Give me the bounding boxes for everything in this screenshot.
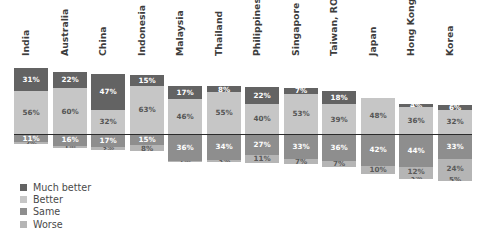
legend-label: Much better (33, 182, 91, 193)
bar-value-label: 48% (369, 112, 386, 119)
zero-baseline (14, 134, 472, 135)
legend-item[interactable]: Better (20, 193, 91, 205)
bar-value-label: 33% (446, 143, 463, 150)
bar-segment: 2% (14, 142, 48, 144)
bar-column: 17%46%36%1% (168, 58, 202, 178)
bar-segment: 33% (438, 134, 472, 159)
category-label-text: Malaysia (174, 10, 185, 56)
category-label-japan: Japan (361, 0, 395, 56)
bar-segment: 31% (14, 68, 48, 92)
bar-value-label: 53% (292, 110, 309, 117)
bar-column: 31%56%11%2% (14, 58, 48, 178)
bar-segment: 24% (438, 159, 472, 177)
bar-value-label: 47% (99, 88, 116, 95)
bar-segment: 12% (399, 167, 433, 176)
bar-value-label: 5% (449, 177, 461, 181)
bar-segment: 63% (130, 86, 164, 134)
bar-value-label: 40% (253, 115, 270, 122)
bar-segment: 11% (245, 155, 279, 163)
bar-segment: 17% (91, 134, 125, 147)
bar-segment: 15% (130, 75, 164, 86)
bar-segment: 1% (91, 149, 125, 150)
bar-segment: 36% (168, 134, 202, 161)
bar-segment: 40% (245, 104, 279, 134)
bar-segment: 10% (361, 166, 395, 174)
bar-segment: 1% (53, 147, 87, 148)
legend-swatch-icon (20, 184, 27, 191)
bar-value-label: 11% (22, 135, 39, 142)
category-label-philippines: Philippines (245, 0, 279, 56)
bar-column: 22%60%16%1%1% (53, 58, 87, 178)
bar-segment: 60% (53, 88, 87, 134)
bar-segment: 18% (322, 91, 356, 105)
legend-swatch-icon (20, 221, 27, 228)
bar-segment: 3% (399, 177, 433, 179)
category-label-text: Indonesia (136, 5, 147, 56)
legend-label: Same (33, 206, 60, 217)
legend-item[interactable]: Much better (20, 181, 91, 193)
category-label-malaysia: Malaysia (168, 0, 202, 56)
bar-segment: 55% (207, 92, 241, 134)
bar-column: 6%32%33%24%5% (438, 58, 472, 178)
bar-value-label: 60% (61, 108, 78, 115)
category-label-text: Thailand (213, 11, 224, 56)
legend-label: Better (33, 194, 63, 205)
bar-value-label: 33% (292, 143, 309, 150)
category-label-india: India (14, 0, 48, 56)
bar-value-label: 27% (253, 141, 270, 148)
bar-value-label: 12% (407, 168, 424, 175)
bar-value-label: 1% (179, 161, 191, 162)
bar-value-label: 8% (141, 145, 153, 151)
chart-legend: Much betterBetterSameWorse (20, 181, 91, 231)
bar-segment: 15% (130, 134, 164, 145)
category-label-text: China (97, 26, 108, 56)
bar-value-label: 36% (330, 144, 347, 151)
bar-value-label: 56% (22, 109, 39, 116)
category-label-text: Australia (59, 9, 70, 56)
bar-segment: 36% (399, 107, 433, 134)
legend-item[interactable]: Worse (20, 218, 91, 230)
bar-segment: 46% (168, 99, 202, 134)
bar-value-label: 1% (102, 149, 114, 150)
bar-value-label: 18% (330, 94, 347, 101)
bar-segment: 16% (53, 134, 87, 146)
bar-column: 22%40%27%11% (245, 58, 279, 178)
bar-value-label: 36% (176, 144, 193, 151)
bar-segment: 39% (322, 104, 356, 134)
chart-container: India31%56%11%2%Australia22%60%16%1%1%Ch… (0, 0, 482, 233)
bar-segment: 1% (168, 161, 202, 162)
bar-value-label: 17% (176, 89, 193, 96)
bar-value-label: 10% (369, 166, 386, 173)
bar-segment: 27% (245, 134, 279, 155)
bar-segment: 32% (438, 110, 472, 134)
bar-value-label: 63% (138, 106, 155, 113)
bar-value-label: 7% (333, 161, 345, 166)
bar-segment: 33% (284, 134, 318, 159)
bar-segment: 36% (322, 134, 356, 161)
bar-value-label: 3% (218, 160, 230, 162)
bar-segment: 5% (438, 177, 472, 181)
bar-value-label: 42% (369, 146, 386, 153)
plot-area: India31%56%11%2%Australia22%60%16%1%1%Ch… (14, 58, 472, 178)
bar-column: 18%39%36%7% (322, 58, 356, 178)
bar-segment: 7% (284, 159, 318, 164)
category-label-text: Japan (367, 27, 378, 56)
bar-column: 8%55%34%3% (207, 58, 241, 178)
legend-item[interactable]: Same (20, 206, 91, 218)
bar-segment: 48% (361, 98, 395, 134)
bar-value-label: 32% (446, 118, 463, 125)
bar-value-label: 3% (410, 177, 422, 179)
bar-segment: 7% (322, 161, 356, 166)
bar-segment: 22% (53, 72, 87, 89)
bar-column: 47%32%17%3%1% (91, 58, 125, 178)
category-label-singapore: Singapore (284, 0, 318, 56)
bar-value-label: 1% (64, 147, 76, 148)
category-label-hong-kong: Hong Kong (399, 0, 433, 56)
legend-swatch-icon (20, 208, 27, 215)
bar-segment: 3% (207, 160, 241, 162)
bar-value-label: 2% (25, 142, 37, 144)
bar-segment: 42% (361, 134, 395, 166)
bar-value-label: 34% (215, 143, 232, 150)
bar-segment: 32% (91, 110, 125, 134)
category-label-text: India (20, 30, 31, 56)
